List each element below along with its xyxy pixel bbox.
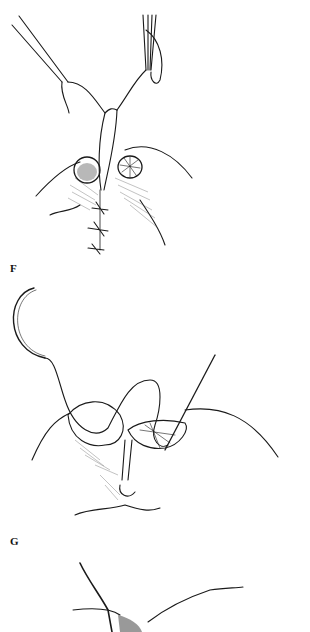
surgical-illustration-partial bbox=[0, 550, 310, 632]
surgical-illustration-f bbox=[0, 0, 310, 280]
figure-label-g: G bbox=[10, 535, 19, 547]
figure-label-f: F bbox=[10, 262, 17, 274]
surgical-illustration-g bbox=[0, 280, 310, 550]
figure-panel-partial bbox=[0, 550, 310, 632]
figure-panel-f: F bbox=[0, 0, 310, 280]
figure-panel-g: G bbox=[0, 280, 310, 550]
